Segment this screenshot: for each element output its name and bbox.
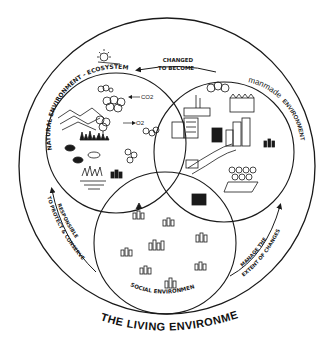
diagram-title: THE LIVING ENVIRONMENT	[0, 0, 240, 333]
natural-ecosystem-illustration	[58, 85, 159, 189]
living-environment-diagram: NATURAL ENVIRONMENT - ECOSYSTEM manmadeE…	[0, 0, 332, 362]
sun-icon	[97, 49, 120, 64]
manmade-environment-circle	[154, 82, 294, 222]
people-group-icon	[195, 262, 206, 270]
people-group-icon	[111, 170, 122, 178]
manmade-environment-label: manmadeENVIRONMENT	[247, 75, 305, 141]
people-group-icon	[196, 233, 207, 242]
flowers-icon	[125, 149, 137, 163]
people-group-icon	[149, 240, 164, 250]
people-group-icon	[264, 139, 275, 147]
to-become-label: TO BECOME	[158, 65, 194, 71]
tree-canopy-icon	[103, 96, 125, 112]
people-group-icon	[165, 278, 176, 288]
water-icon	[80, 181, 106, 189]
vegetation-icon	[80, 131, 109, 140]
social-environment-label: SOCIAL ENVIRONMENT	[0, 0, 196, 295]
factory-icon	[184, 95, 210, 116]
animal-icon	[65, 145, 100, 163]
houses-grid-icon	[224, 167, 258, 192]
people-group-icon	[163, 218, 174, 226]
cloud-icon	[98, 85, 113, 92]
housing-block-icon	[230, 94, 254, 112]
building-block-icon	[192, 194, 206, 205]
extent-of-changes-label: EXTENT OF CHANGES	[240, 227, 281, 277]
co2-label: CO2	[141, 94, 154, 100]
city-skyscrapers-icon	[212, 118, 250, 146]
people-group-icon	[121, 248, 132, 256]
o2-label: O2	[136, 120, 145, 126]
vehicle-icon	[186, 160, 198, 168]
reeds-icon	[82, 166, 102, 176]
changed-label: CHANGED	[163, 57, 194, 63]
protect-conserve-label: TO PROTECT & CONSERVE	[46, 195, 86, 261]
mountains-icon	[58, 108, 104, 130]
manmade-illustration	[172, 82, 275, 205]
people-group-icon	[140, 266, 151, 274]
